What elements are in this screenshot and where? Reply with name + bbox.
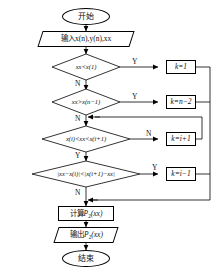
node-decision-2-label: xx>x(n−1) xyxy=(72,99,100,106)
node-decision-3[interactable]: x(i)<xx<x(i+1) xyxy=(42,126,130,152)
branch-label-d3-no: N xyxy=(146,129,151,138)
node-decision-2[interactable]: xx>x(n−1) xyxy=(52,89,120,115)
branch-label-d1-yes: Y xyxy=(132,57,137,66)
node-assign-2[interactable]: k=n−2 xyxy=(166,95,196,109)
branch-label-d2-no: N xyxy=(75,114,80,123)
node-assign-4-label: k=i−1 xyxy=(171,170,190,178)
node-assign-1[interactable]: k=1 xyxy=(166,60,196,74)
branch-label-d2-yes: Y xyxy=(132,92,137,101)
flowchart-canvas: 开始 输入x(n),y(n),xx xx<x(1) xx>x(n−1) x(i)… xyxy=(0,0,218,280)
branch-label-d4-no: N xyxy=(75,188,80,197)
node-end-label: 结束 xyxy=(78,255,94,263)
node-input[interactable]: 输入x(n),y(n),xx xyxy=(37,31,134,47)
node-start[interactable]: 开始 xyxy=(62,8,110,25)
node-compute-label: 计算P2(xx) xyxy=(70,210,103,218)
node-decision-1[interactable]: xx<x(1) xyxy=(52,54,120,80)
node-output[interactable]: 输出P2(xx) xyxy=(53,227,118,243)
branch-label-d1-no: N xyxy=(75,79,80,88)
node-start-label: 开始 xyxy=(78,13,94,21)
node-assign-3-label: k=i+1 xyxy=(171,135,190,143)
node-compute[interactable]: 计算P2(xx) xyxy=(58,206,114,221)
node-assign-3[interactable]: k=i+1 xyxy=(166,132,196,146)
node-decision-4-label: |xx−x(i)|<|x(i+1)−xx| xyxy=(57,171,115,178)
node-input-label: 输入x(n),y(n),xx xyxy=(61,35,111,43)
node-decision-1-label: xx<x(1) xyxy=(76,64,97,71)
node-assign-1-label: k=1 xyxy=(175,63,187,71)
node-end[interactable]: 结束 xyxy=(62,250,110,267)
node-decision-4[interactable]: |xx−x(i)|<|x(i+1)−xx| xyxy=(32,161,140,187)
node-decision-3-label: x(i)<xx<x(i+1) xyxy=(66,136,106,143)
node-assign-4[interactable]: k=i−1 xyxy=(166,167,196,181)
branch-label-d3-yes: Y xyxy=(75,151,80,160)
node-assign-2-label: k=n−2 xyxy=(171,98,192,106)
node-output-label: 输出P2(xx) xyxy=(70,231,103,239)
branch-label-d4-yes: Y xyxy=(152,163,157,172)
